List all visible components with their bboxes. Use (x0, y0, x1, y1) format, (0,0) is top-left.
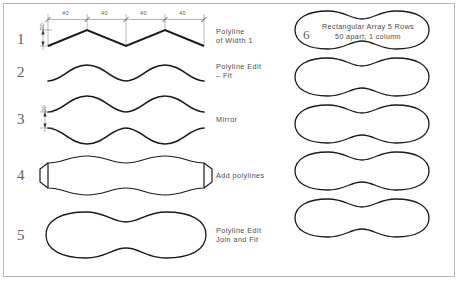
step-label-4: Add polylines (216, 171, 265, 180)
dimension-value-20-step3: 20 (42, 105, 48, 112)
array-number-6: 6 (303, 28, 310, 41)
array-shape-row-2 (295, 58, 429, 96)
shape-step5-peanut (46, 212, 206, 258)
step-number-2: 2 (17, 65, 25, 80)
array-note-line2: 50 apart; 1 column (335, 32, 401, 41)
dimension-value-40-a: 40 (62, 11, 69, 17)
dimension-chain-horizontal (48, 14, 204, 46)
array-shape-row-5 (295, 199, 429, 237)
step-label-3-line1: Mirror (216, 115, 237, 124)
shape-step3-wave-upper (48, 96, 204, 112)
dimension-value-40-d: 40 (179, 11, 186, 17)
step-label-4-line1: Add polylines (216, 171, 265, 180)
shape-step4-end-right (204, 163, 212, 188)
dimension-value-40-b: 40 (101, 11, 108, 17)
shape-step4-end-left (40, 163, 48, 188)
step-label-3: Mirror (216, 115, 237, 124)
array-note: Rectangular Array 5 Rows50 apart; 1 colu… (312, 22, 424, 41)
step-label-5-line1: Polyline Edit (216, 226, 261, 235)
step-number-1: 1 (17, 32, 25, 47)
step-number-3: 3 (17, 112, 25, 127)
array-note-line1: Rectangular Array 5 Rows (322, 22, 414, 31)
step-number-4: 4 (17, 168, 25, 183)
step-label-2-line1: Polyline Edit (216, 62, 261, 71)
step-label-1-line1: Polyline (216, 27, 245, 36)
shape-step3-wave-lower (48, 128, 204, 144)
step-label-1-line2: of Width 1 (216, 36, 253, 45)
dimension-value-40-c: 40 (140, 11, 147, 17)
step-label-5-line2: Join and Fit (216, 235, 259, 244)
step-label-2-line2: – Fit (216, 71, 232, 80)
step-label-1: Polylineof Width 1 (216, 27, 253, 46)
dimension-value-20-step1: 20 (40, 23, 46, 30)
shape-step4-closed-polygon (48, 156, 204, 195)
array-shape-row-4 (295, 152, 429, 190)
shape-step2-fitted-wave (48, 65, 204, 81)
step-label-5: Polyline EditJoin and Fit (216, 226, 261, 245)
array-shape-row-3 (295, 105, 429, 143)
step-number-5: 5 (17, 228, 25, 243)
step-label-2: Polyline Edit– Fit (216, 62, 261, 81)
drawing-sheet: 1 2 3 4 5 40 40 40 40 20 20 Polylineof W… (0, 0, 460, 282)
